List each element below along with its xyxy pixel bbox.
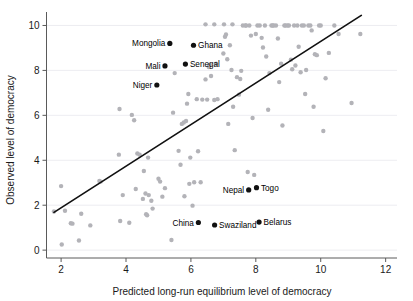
data-point bbox=[239, 69, 243, 73]
data-point bbox=[121, 193, 125, 197]
point-label-niger: Niger bbox=[133, 81, 153, 90]
data-point bbox=[222, 22, 226, 26]
data-point bbox=[261, 45, 265, 49]
data-point bbox=[150, 206, 154, 210]
data-point bbox=[176, 149, 180, 153]
data-point bbox=[315, 53, 319, 57]
data-point bbox=[295, 23, 299, 27]
data-point bbox=[287, 23, 291, 27]
data-point bbox=[134, 187, 138, 191]
data-point bbox=[195, 97, 199, 101]
scatter-plot-figure: 024681024681012 MongoliaGhanaMaliSenegal… bbox=[0, 0, 413, 301]
data-point bbox=[228, 43, 232, 47]
data-point bbox=[158, 179, 162, 183]
data-point bbox=[88, 223, 92, 227]
point-label-ghana: Ghana bbox=[198, 41, 223, 50]
highlighted-data-point-senegal bbox=[183, 62, 188, 67]
data-point bbox=[203, 22, 207, 26]
data-point bbox=[266, 108, 270, 112]
data-point bbox=[141, 197, 145, 201]
data-point bbox=[171, 110, 175, 114]
data-point bbox=[185, 101, 189, 105]
data-point bbox=[196, 149, 200, 153]
data-point bbox=[290, 67, 294, 71]
data-point bbox=[60, 242, 64, 246]
x-tick-label: 6 bbox=[188, 264, 194, 275]
highlighted-data-point-nepal bbox=[246, 187, 251, 192]
point-label-china: China bbox=[172, 219, 194, 228]
data-point bbox=[190, 203, 194, 207]
highlighted-data-point-mali bbox=[162, 63, 167, 68]
data-point bbox=[221, 51, 225, 55]
data-point bbox=[169, 238, 173, 242]
data-point bbox=[296, 45, 300, 49]
y-tick-label: 4 bbox=[34, 155, 40, 166]
data-point bbox=[349, 101, 353, 105]
data-point bbox=[132, 118, 136, 122]
data-point bbox=[198, 180, 202, 184]
data-point bbox=[247, 23, 251, 27]
data-point bbox=[187, 182, 191, 186]
data-point bbox=[302, 23, 306, 27]
data-point bbox=[332, 23, 336, 27]
data-point bbox=[277, 80, 281, 84]
data-point bbox=[163, 186, 167, 190]
gridlines-group bbox=[47, 25, 398, 250]
data-point bbox=[127, 221, 131, 225]
data-point bbox=[147, 193, 151, 197]
data-point bbox=[254, 32, 258, 36]
data-point bbox=[263, 23, 267, 27]
data-point bbox=[259, 36, 263, 40]
data-point bbox=[249, 33, 253, 37]
point-label-mongolia: Mongolia bbox=[132, 39, 166, 48]
data-point bbox=[205, 97, 209, 101]
data-point bbox=[77, 238, 81, 242]
data-point bbox=[327, 51, 331, 55]
data-point bbox=[252, 173, 256, 177]
data-point bbox=[309, 28, 313, 32]
point-labels-group: MongoliaGhanaMaliSenegalNigerNepalTogoCh… bbox=[132, 39, 291, 230]
data-point bbox=[321, 129, 325, 133]
data-point bbox=[145, 213, 149, 217]
data-point bbox=[231, 105, 235, 109]
data-point bbox=[303, 92, 307, 96]
data-point bbox=[229, 68, 233, 72]
highlighted-data-point-mongolia bbox=[167, 41, 172, 46]
data-point bbox=[63, 209, 67, 213]
y-axis-title: Observed level of democracy bbox=[5, 75, 16, 205]
data-point bbox=[130, 113, 134, 117]
data-point bbox=[246, 170, 250, 174]
point-label-senegal: Senegal bbox=[190, 60, 220, 69]
highlighted-data-point-togo bbox=[254, 185, 259, 190]
highlighted-data-point-china bbox=[196, 220, 201, 225]
x-tick-label: 4 bbox=[123, 264, 129, 275]
data-point bbox=[250, 116, 254, 120]
x-tick-label: 8 bbox=[253, 264, 259, 275]
highlighted-data-point-belarus bbox=[256, 219, 261, 224]
data-point bbox=[264, 54, 268, 58]
data-point bbox=[79, 212, 83, 216]
data-point bbox=[336, 32, 340, 36]
data-point bbox=[186, 92, 190, 96]
data-point bbox=[298, 70, 302, 74]
point-label-mali: Mali bbox=[145, 62, 160, 71]
y-tick-label: 6 bbox=[34, 110, 40, 121]
y-tick-label: 8 bbox=[34, 65, 40, 76]
data-point bbox=[233, 148, 237, 152]
highlighted-data-point-ghana bbox=[191, 43, 196, 48]
data-point bbox=[212, 22, 216, 26]
data-point bbox=[59, 184, 63, 188]
data-point bbox=[224, 32, 228, 36]
y-tick-label: 0 bbox=[34, 245, 40, 256]
tick-labels-group: 024681024681012 bbox=[28, 20, 391, 275]
data-point bbox=[311, 105, 315, 109]
data-point bbox=[160, 194, 164, 198]
x-tick-label: 2 bbox=[58, 264, 64, 275]
point-label-belarus: Belarus bbox=[264, 218, 292, 227]
data-point bbox=[226, 122, 230, 126]
data-point bbox=[274, 23, 278, 27]
data-point bbox=[200, 97, 204, 101]
data-point bbox=[184, 119, 188, 123]
data-point bbox=[182, 194, 186, 198]
data-point bbox=[258, 23, 262, 27]
